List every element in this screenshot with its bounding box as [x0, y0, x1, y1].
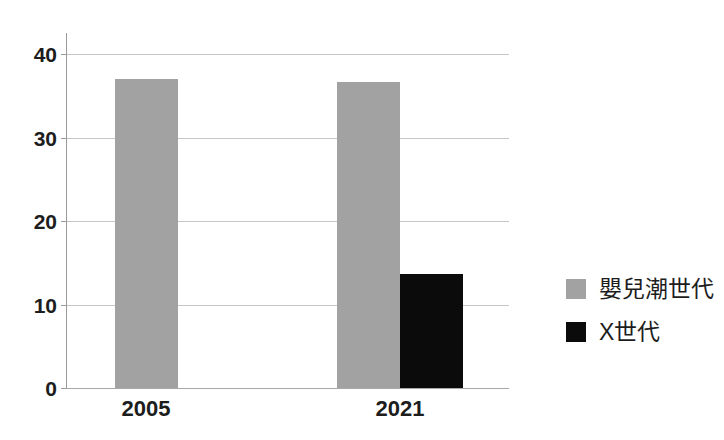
legend-item-boomer-generation: 嬰兒潮世代 — [566, 277, 714, 301]
y-tick-label-0: 0 — [0, 378, 57, 399]
legend-label-gen-x: X世代 — [599, 321, 660, 344]
bar-2021-嬰兒潮世代 — [337, 82, 400, 388]
x-tick-label-2005: 2005 — [86, 398, 206, 420]
y-tick-label-30: 30 — [0, 128, 57, 149]
bar-2021-X世代 — [400, 274, 463, 388]
x-axis-line — [66, 388, 509, 389]
bar-chart: 01020304020052021 嬰兒潮世代 X世代 — [0, 0, 724, 440]
legend-label-boomer-generation: 嬰兒潮世代 — [599, 278, 714, 301]
y-tick-label-10: 10 — [0, 295, 57, 316]
legend-item-gen-x: X世代 — [566, 320, 714, 344]
bar-2005-嬰兒潮世代 — [115, 79, 178, 388]
plot-area: 01020304020052021 — [0, 0, 724, 440]
gridline-40 — [66, 54, 509, 55]
legend: 嬰兒潮世代 X世代 — [566, 277, 714, 363]
y-tick-label-40: 40 — [0, 44, 57, 65]
legend-swatch-gen-x — [566, 322, 586, 342]
y-tick-label-20: 20 — [0, 211, 57, 232]
legend-swatch-boomer-generation — [566, 279, 586, 299]
y-axis-line — [66, 33, 67, 388]
x-tick-label-2021: 2021 — [340, 398, 460, 420]
